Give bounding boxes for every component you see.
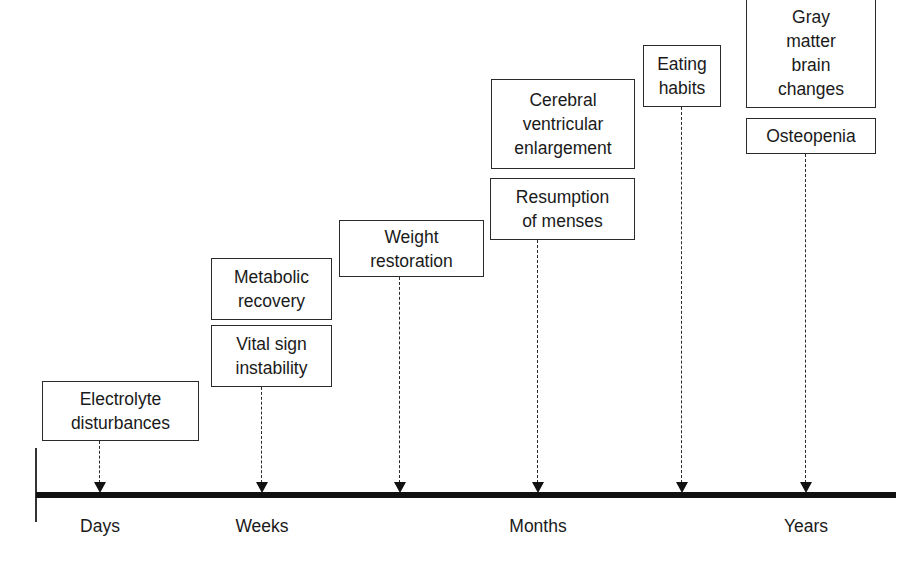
event-box-resumption-of-menses: Resumption of menses xyxy=(490,178,635,240)
event-text: instability xyxy=(236,356,308,380)
dashed-connector xyxy=(537,240,538,483)
event-text: Gray xyxy=(792,5,830,29)
event-box-osteopenia: Osteopenia xyxy=(746,118,876,154)
event-text: matter xyxy=(786,29,836,53)
axis-label-weeks: Weeks xyxy=(235,516,288,537)
event-text: Electrolyte xyxy=(80,387,162,411)
event-text: habits xyxy=(659,76,706,100)
axis-label-years: Years xyxy=(784,516,828,537)
event-text: brain xyxy=(792,53,831,77)
event-text: disturbances xyxy=(71,411,170,435)
event-text: Eating xyxy=(657,52,707,76)
arrow-down-icon xyxy=(256,482,268,493)
arrow-down-icon xyxy=(532,482,544,493)
event-text: ventricular xyxy=(523,112,604,136)
event-box-cerebral-ventricular-enlargement: Cerebral ventricular enlargement xyxy=(491,79,635,169)
dashed-connector xyxy=(681,107,682,483)
event-box-vital-sign-instability: Vital sign instability xyxy=(211,325,332,387)
event-text: Vital sign xyxy=(236,332,307,356)
dashed-connector xyxy=(399,277,400,483)
event-text: of menses xyxy=(522,209,603,233)
event-text: Resumption xyxy=(516,185,609,209)
dashed-connector xyxy=(261,387,262,483)
event-box-eating-habits: Eating habits xyxy=(643,45,721,107)
event-text: Metabolic xyxy=(234,265,309,289)
arrow-down-icon xyxy=(800,482,812,493)
event-text: Weight xyxy=(384,225,438,249)
arrow-down-icon xyxy=(676,482,688,493)
event-text: changes xyxy=(778,77,844,101)
event-text: Osteopenia xyxy=(766,124,856,148)
axis-start-tick xyxy=(35,448,37,522)
dashed-connector xyxy=(99,441,100,483)
event-text: recovery xyxy=(238,289,305,313)
event-text: Cerebral xyxy=(529,88,596,112)
timeline-axis xyxy=(36,492,896,498)
axis-label-days: Days xyxy=(80,516,120,537)
event-box-weight-restoration: Weight restoration xyxy=(339,220,484,277)
event-text: enlargement xyxy=(514,136,611,160)
dashed-connector xyxy=(805,154,806,483)
event-box-gray-matter-brain-changes: Gray matter brain changes xyxy=(746,0,876,108)
event-text: restoration xyxy=(370,249,453,273)
arrow-down-icon xyxy=(394,482,406,493)
event-box-metabolic-recovery: Metabolic recovery xyxy=(211,258,332,320)
axis-label-months: Months xyxy=(509,516,566,537)
event-box-electrolyte-disturbances: Electrolyte disturbances xyxy=(42,381,199,441)
arrow-down-icon xyxy=(94,482,106,493)
